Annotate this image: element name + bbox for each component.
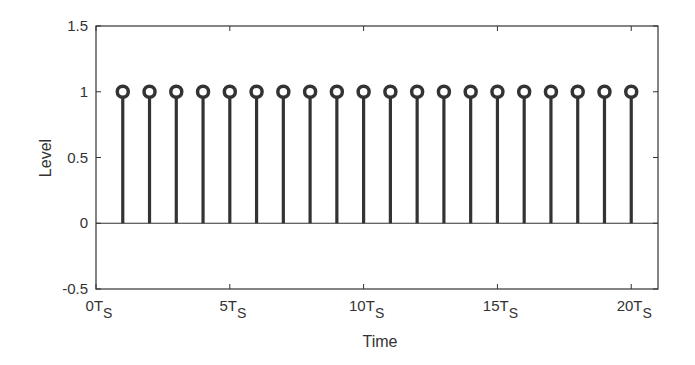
stem <box>438 86 449 223</box>
stem-marker <box>492 86 503 97</box>
stem <box>358 86 369 223</box>
stem-marker <box>385 86 396 97</box>
stem-marker <box>572 86 583 97</box>
stem <box>224 86 235 223</box>
x-axis-label: Time <box>363 333 398 350</box>
stem-marker <box>599 86 610 97</box>
stem-marker <box>278 86 289 97</box>
stem <box>198 86 209 223</box>
x-tick-label: 5TS <box>219 297 246 321</box>
stem-chart: 0TS5TS10TS15TS20TS -0.500.511.5 Time Lev… <box>0 0 695 365</box>
y-axis-label: Level <box>37 139 54 177</box>
stem-marker <box>626 86 637 97</box>
plot-area <box>96 26 658 289</box>
stem-series <box>117 86 636 223</box>
x-tick-label: 0TS <box>86 297 113 321</box>
stem <box>251 86 262 223</box>
stem <box>412 86 423 223</box>
y-tick-label: 1.5 <box>67 17 88 34</box>
stem <box>572 86 583 223</box>
stem <box>465 86 476 223</box>
stem <box>117 86 128 223</box>
stem <box>144 86 155 223</box>
stem-marker <box>305 86 316 97</box>
stem-marker <box>412 86 423 97</box>
x-tick-label: 15TS <box>483 297 518 321</box>
stem <box>171 86 182 223</box>
stem-marker <box>519 86 530 97</box>
stem-marker <box>171 86 182 97</box>
y-tick-label: 1 <box>80 83 88 100</box>
stem <box>519 86 530 223</box>
axes-box <box>96 26 658 289</box>
stem-marker <box>198 86 209 97</box>
y-axis-ticks: -0.500.511.5 <box>62 17 658 297</box>
stem-marker <box>144 86 155 97</box>
stem-marker <box>117 86 128 97</box>
stem <box>331 86 342 223</box>
x-axis-ticks: 0TS5TS10TS15TS20TS <box>86 26 652 321</box>
y-tick-label: 0 <box>80 214 88 231</box>
stem <box>492 86 503 223</box>
x-tick-label: 20TS <box>617 297 652 321</box>
stem-marker <box>331 86 342 97</box>
stem <box>385 86 396 223</box>
stem <box>305 86 316 223</box>
y-tick-label: 0.5 <box>67 149 88 166</box>
stem <box>545 86 556 223</box>
stem <box>626 86 637 223</box>
stem-marker <box>251 86 262 97</box>
stem-marker <box>438 86 449 97</box>
x-tick-label: 10TS <box>349 297 384 321</box>
stem-marker <box>545 86 556 97</box>
y-tick-label: -0.5 <box>62 280 88 297</box>
stem <box>278 86 289 223</box>
stem-marker <box>465 86 476 97</box>
stem <box>599 86 610 223</box>
stem-marker <box>224 86 235 97</box>
stem-marker <box>358 86 369 97</box>
